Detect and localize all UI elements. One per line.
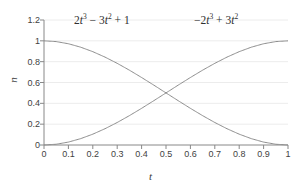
y-tick-label: 0.2	[14, 120, 40, 129]
operator-1: −	[90, 14, 97, 26]
curve-annotation-ascending: −2t3 + 3t2	[194, 14, 238, 26]
exp-2: 2	[108, 12, 112, 21]
chart-figure: 0 0.2 0.4 0.6 0.8 1 1.2 0 0.1 0.2 0.3 0.…	[0, 0, 301, 191]
x-tick-label: 0.5	[154, 150, 178, 159]
x-tick-label: 0.8	[227, 150, 251, 159]
x-tick-label: 1	[276, 150, 300, 159]
constant-term: 1	[124, 14, 130, 26]
exp-2: 2	[234, 12, 238, 21]
exp-1: 3	[83, 12, 87, 21]
x-tick-label: 0.3	[105, 150, 129, 159]
x-tick-label: 0.9	[252, 150, 276, 159]
operator-1: +	[216, 14, 223, 26]
y-tick-label: 0.8	[14, 58, 40, 67]
y-axis-ticks	[40, 20, 44, 145]
curve-ascending	[44, 41, 288, 145]
y-tick-label: 0.4	[14, 99, 40, 108]
y-tick-label-group: 0 0.2 0.4 0.6 0.8 1 1.2	[14, 0, 40, 191]
x-tick-label: 0.6	[178, 150, 202, 159]
operator-2: +	[115, 14, 122, 26]
y-tick-label: 1.2	[14, 16, 40, 25]
y-tick-label: 1	[14, 37, 40, 46]
x-tick-label: 0.1	[56, 150, 80, 159]
curve-annotation-descending: 2t3 − 3t2 + 1	[74, 14, 130, 26]
x-axis-label: t	[0, 170, 301, 182]
y-axis-label: n	[7, 71, 19, 89]
x-tick-label: 0.2	[81, 150, 105, 159]
x-tick-label: 0	[32, 150, 56, 159]
grid-lines	[44, 20, 288, 124]
exp-1: 3	[209, 12, 213, 21]
x-tick-label: 0.7	[203, 150, 227, 159]
y-tick-label: 0	[14, 141, 40, 150]
chart-plot-svg	[0, 0, 301, 191]
x-tick-label: 0.4	[130, 150, 154, 159]
